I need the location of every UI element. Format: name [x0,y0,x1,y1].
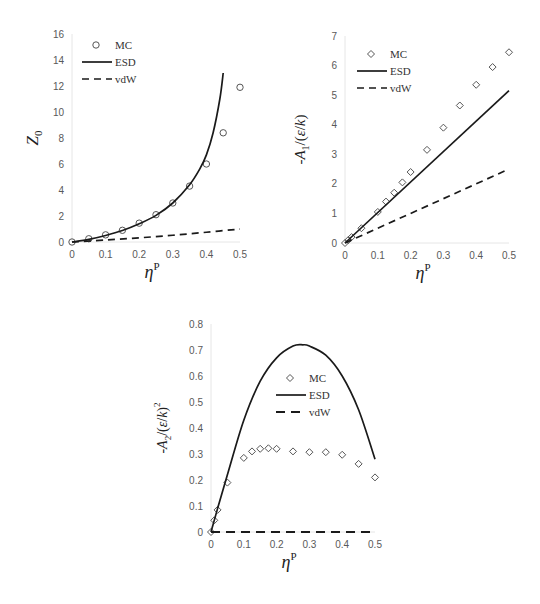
y-tick-label: 0.6 [189,371,203,382]
mc-marker [93,42,99,48]
mc-marker [322,449,329,456]
x-tick-label: 0.5 [502,250,516,261]
y-tick-label: 1 [331,208,337,219]
y-tick-label: 14 [53,55,65,66]
x-tick-label: 0.1 [99,249,113,260]
y-tick-label: 10 [53,107,65,118]
y-tick-label: 0.3 [189,449,203,460]
mc-marker [399,179,406,186]
y-tick-label: 0 [197,527,203,538]
x-tick-label: 0.5 [233,249,247,260]
mc-marker [257,445,264,452]
legend-label-esd: ESD [309,389,330,401]
y-tick-label: 8 [58,133,64,144]
x-tick-label: 0.5 [368,539,382,550]
mc-marker [240,454,247,461]
y-axis-label: Z0 [23,130,44,145]
legend-label-vdw: vdW [115,73,137,85]
mc-marker [368,51,375,58]
y-tick-label: 6 [331,60,337,71]
legend-label-mc: MC [390,48,407,60]
x-axis-label: ηP [144,260,159,282]
y-tick-label: 4 [58,185,64,196]
x-tick-label: 0.3 [436,250,450,261]
series-vdw [72,229,240,242]
chart-a1: 0123456700.10.20.30.40.5ηP-A1/(ε/k)MCESD… [292,31,516,284]
x-tick-label: 0.3 [166,249,180,260]
y-tick-label: 16 [53,29,65,40]
mc-marker [306,449,313,456]
legend-label-esd: ESD [115,56,136,68]
y-axis-label: -A2/(ε/k)2 [152,402,173,453]
x-tick-label: 0 [342,250,348,261]
x-tick-label: 0.2 [132,249,146,260]
mc-marker [355,460,362,467]
x-tick-label: 0.3 [302,539,316,550]
mc-marker [249,448,256,455]
mc-marker [473,81,480,88]
legend-label-vdw: vdW [390,82,412,94]
legend-label-mc: MC [115,39,132,51]
y-tick-label: 0.1 [189,501,203,512]
x-axis-label: ηP [281,550,296,572]
y-tick-label: 0 [331,238,337,249]
mc-marker [372,474,379,481]
y-tick-label: 0.8 [189,319,203,330]
x-tick-label: 0 [208,539,214,550]
y-tick-label: 2 [331,178,337,189]
legend-label-mc: MC [309,372,326,384]
legend: MCESDvdW [82,39,137,85]
mc-marker [506,49,513,56]
y-tick-label: 0.4 [189,423,203,434]
x-tick-label: 0.1 [371,250,385,261]
y-tick-label: 5 [331,90,337,101]
y-tick-label: 3 [331,149,337,160]
series-mc [342,49,513,247]
y-tick-label: 7 [331,31,337,42]
series-esd [72,73,223,242]
mc-marker [273,445,280,452]
series-mc [208,445,379,536]
x-tick-label: 0.4 [469,250,483,261]
y-tick-label: 0.7 [189,345,203,356]
y-tick-label: 0.2 [189,475,203,486]
y-tick-label: 0.5 [189,397,203,408]
series-esd [345,91,509,243]
legend: MCESDvdW [276,372,331,418]
mc-marker [407,169,414,176]
x-tick-label: 0.4 [199,249,213,260]
series-mc [69,84,243,245]
mc-marker [489,64,496,71]
x-tick-label: 0.4 [335,539,349,550]
mc-marker [424,146,431,153]
legend: MCESDvdW [357,48,412,94]
x-tick-label: 0.2 [270,539,284,550]
mc-marker [237,84,243,90]
mc-marker [456,102,463,109]
series-esd [211,345,375,532]
y-tick-label: 6 [58,159,64,170]
mc-marker [339,451,346,458]
chart-a2: 00.10.20.30.40.50.60.70.800.10.20.30.40.… [152,319,382,573]
chart-z0: 024681012141600.10.20.30.40.5ηPZ0MCESDvd… [23,29,247,283]
series-vdw [345,169,509,243]
legend-label-esd: ESD [390,65,411,77]
mc-marker [287,375,294,382]
figure-canvas: 024681012141600.10.20.30.40.5ηPZ0MCESDvd… [0,0,540,604]
mc-marker [290,448,297,455]
y-tick-label: 4 [331,119,337,130]
x-tick-label: 0.2 [404,250,418,261]
mc-marker [220,130,226,136]
y-axis-label: -A1/(ε/k) [292,114,311,164]
y-tick-label: 2 [58,211,64,222]
mc-marker [440,124,447,131]
y-tick-label: 12 [53,81,65,92]
x-tick-label: 0 [69,249,75,260]
x-axis-label: ηP [415,261,430,283]
mc-marker [265,445,272,452]
legend-label-vdw: vdW [309,406,331,418]
y-tick-label: 0 [58,237,64,248]
x-tick-label: 0.1 [237,539,251,550]
